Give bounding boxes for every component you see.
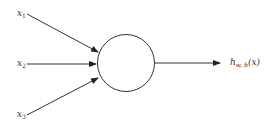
input-subscript: 2	[22, 62, 26, 69]
input-label-x2: x2	[17, 59, 26, 69]
neuron-node	[98, 35, 155, 92]
output-label: hw, b(x)	[230, 58, 260, 68]
input-arrow-1	[27, 14, 98, 52]
output-subscript: w, b	[236, 61, 248, 68]
input-label-x3: x3	[17, 110, 26, 120]
input-subscript: 3	[22, 113, 26, 120]
output-argument: (x)	[248, 57, 260, 67]
neuron-diagram: x1 x2 x3 hw, b(x)	[0, 0, 267, 125]
input-arrow-3	[27, 78, 98, 115]
input-label-x1: x1	[17, 9, 26, 19]
diagram-canvas	[0, 0, 267, 125]
input-subscript: 1	[22, 12, 26, 19]
